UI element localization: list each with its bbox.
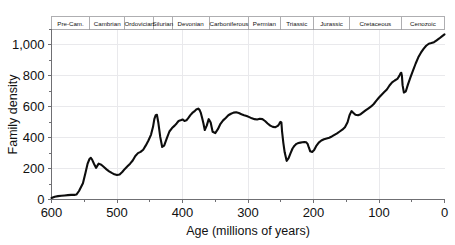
period-band-label-triassic: Triassic: [286, 20, 307, 27]
period-band-label-cretaceous: Cretaceous: [360, 20, 392, 27]
y-tick-label-800: 800: [23, 68, 45, 83]
period-band-label-devonian: Devonian: [178, 20, 205, 27]
y-tick-label-1000: 1,000: [12, 37, 45, 52]
period-band-label-permian: Permian: [253, 20, 277, 27]
x-tick-label-200: 200: [303, 205, 325, 220]
x-tick-label-400: 400: [172, 205, 194, 220]
y-tick-label-200: 200: [23, 161, 45, 176]
period-band-label-ordovician: Ordovician: [124, 20, 154, 27]
x-tick-label-0: 0: [441, 205, 448, 220]
y-tick-label-400: 400: [23, 130, 45, 145]
x-axis-title: Age (millions of years): [186, 224, 310, 238]
x-tick-label-300: 300: [237, 205, 259, 220]
period-band-label-cenozoic: Cenozoic: [410, 20, 436, 27]
geologic-period-labels: Pre-Cam.CambrianOrdovicianSilurianDevoni…: [57, 20, 436, 27]
y-tick-label-600: 600: [23, 99, 45, 114]
period-band-label-precam: Pre-Cam.: [57, 20, 84, 27]
period-band-label-jurassic: Jurassic: [320, 20, 343, 27]
x-tick-label-500: 500: [106, 205, 128, 220]
gridlines-group: [52, 30, 445, 200]
y-axis-title: Family density: [6, 74, 20, 155]
period-band-label-silurian: Silurian: [153, 20, 174, 27]
period-band-label-carboniferous: Carboniferous: [210, 20, 249, 27]
x-axis-tick-labels: 6005004003002001000: [41, 205, 448, 220]
chart-container: Pre-Cam.CambrianOrdovicianSilurianDevoni…: [0, 0, 455, 245]
family-density-line-chart: Pre-Cam.CambrianOrdovicianSilurianDevoni…: [0, 0, 455, 245]
period-band-label-cambrian: Cambrian: [94, 20, 121, 27]
y-tick-label-0: 0: [37, 192, 44, 207]
x-tick-label-100: 100: [368, 205, 390, 220]
